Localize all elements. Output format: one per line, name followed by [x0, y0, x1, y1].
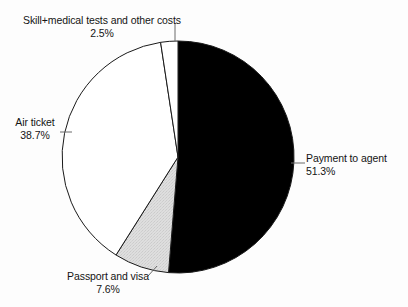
- pie-label-air-ticket-name: Air ticket: [6, 116, 64, 129]
- pie-label-payment-to-agent-value: 51.3%: [306, 165, 406, 178]
- pie-label-skill-medical-tests: Skill+medical tests and other costs 2.5%: [4, 14, 200, 40]
- pie-label-skill-medical-tests-name: Skill+medical tests and other costs: [4, 14, 200, 27]
- pie-label-passport-and-visa-value: 7.6%: [60, 283, 156, 296]
- pie-label-payment-to-agent: Payment to agent 51.3%: [306, 152, 406, 178]
- pie-chart-figure: Skill+medical tests and other costs 2.5%…: [0, 0, 408, 307]
- pie-label-skill-medical-tests-value: 2.5%: [4, 27, 200, 40]
- pie-slice-payment-to-agent[interactable]: [169, 41, 295, 273]
- pie-label-passport-and-visa: Passport and visa 7.6%: [60, 270, 156, 296]
- pie-label-air-ticket: Air ticket 38.7%: [6, 116, 64, 142]
- pie-label-payment-to-agent-name: Payment to agent: [306, 152, 406, 165]
- pie-label-passport-and-visa-name: Passport and visa: [60, 270, 156, 283]
- pie-label-air-ticket-value: 38.7%: [6, 129, 64, 142]
